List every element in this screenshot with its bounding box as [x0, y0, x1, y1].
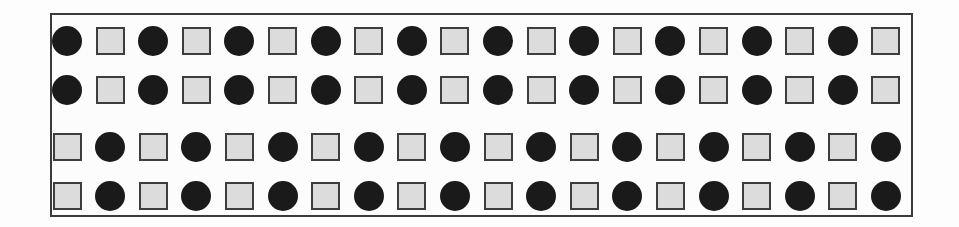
circle-shape — [742, 75, 772, 105]
circle-shape — [138, 26, 168, 56]
circle-shape — [871, 181, 901, 211]
square-shape — [742, 182, 771, 210]
square-shape — [311, 133, 340, 161]
square-shape — [354, 27, 383, 55]
square-shape — [484, 182, 513, 210]
circle-shape — [526, 132, 556, 162]
square-shape — [182, 76, 211, 104]
square-shape — [527, 76, 556, 104]
circle-shape — [483, 75, 513, 105]
square-shape — [96, 76, 125, 104]
square-shape — [828, 182, 857, 210]
square-shape — [311, 182, 340, 210]
circle-shape — [224, 75, 254, 105]
square-shape — [440, 27, 469, 55]
circle-shape — [655, 26, 685, 56]
square-shape — [268, 76, 297, 104]
square-shape — [484, 133, 513, 161]
square-shape — [656, 133, 685, 161]
square-shape — [53, 133, 82, 161]
circle-shape — [483, 26, 513, 56]
circle-shape — [397, 75, 427, 105]
square-shape — [225, 133, 254, 161]
circle-shape — [699, 132, 729, 162]
circle-shape — [569, 26, 599, 56]
square-shape — [527, 27, 556, 55]
circle-shape — [785, 132, 815, 162]
circle-shape — [181, 181, 211, 211]
square-shape — [139, 133, 168, 161]
circle-shape — [311, 26, 341, 56]
square-shape — [182, 27, 211, 55]
square-shape — [397, 133, 426, 161]
circle-shape — [95, 181, 125, 211]
circle-shape — [52, 26, 82, 56]
circle-shape — [138, 75, 168, 105]
circle-shape — [742, 26, 772, 56]
circle-shape — [612, 181, 642, 211]
square-shape — [268, 27, 297, 55]
circle-shape — [871, 132, 901, 162]
square-shape — [570, 182, 599, 210]
square-shape — [785, 76, 814, 104]
square-shape — [742, 133, 771, 161]
circle-shape — [354, 132, 384, 162]
square-shape — [613, 27, 642, 55]
circle-shape — [95, 132, 125, 162]
square-shape — [440, 76, 469, 104]
circle-shape — [828, 26, 858, 56]
circle-shape — [224, 26, 254, 56]
circle-shape — [828, 75, 858, 105]
circle-shape — [440, 132, 470, 162]
circle-shape — [569, 75, 599, 105]
circle-shape — [699, 181, 729, 211]
circle-shape — [181, 132, 211, 162]
circle-shape — [397, 26, 427, 56]
square-shape — [828, 133, 857, 161]
square-shape — [871, 27, 900, 55]
square-shape — [53, 182, 82, 210]
square-shape — [871, 76, 900, 104]
circle-shape — [311, 75, 341, 105]
circle-shape — [526, 181, 556, 211]
square-shape — [656, 182, 685, 210]
square-shape — [570, 133, 599, 161]
circle-shape — [52, 75, 82, 105]
square-shape — [699, 27, 728, 55]
circle-shape — [268, 181, 298, 211]
pattern-frame — [50, 13, 913, 217]
square-shape — [96, 27, 125, 55]
circle-shape — [440, 181, 470, 211]
circle-shape — [354, 181, 384, 211]
square-shape — [397, 182, 426, 210]
square-shape — [699, 76, 728, 104]
square-shape — [785, 27, 814, 55]
circle-shape — [655, 75, 685, 105]
square-shape — [225, 182, 254, 210]
square-shape — [613, 76, 642, 104]
circle-shape — [268, 132, 298, 162]
square-shape — [354, 76, 383, 104]
circle-shape — [785, 181, 815, 211]
square-shape — [139, 182, 168, 210]
circle-shape — [612, 132, 642, 162]
